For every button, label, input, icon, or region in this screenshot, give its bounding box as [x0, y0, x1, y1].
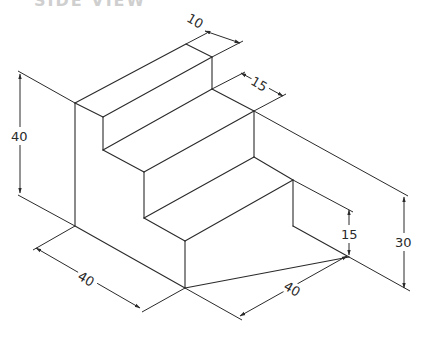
dim-line-top-step-depth — [205, 31, 240, 43]
dim-label-total-height: 40 — [11, 129, 28, 144]
object-edges — [75, 44, 349, 288]
dim-label-right-height: 30 — [395, 235, 412, 250]
dim-label-bottom-step-height: 15 — [341, 227, 358, 242]
isometric-stairs-drawing: 40 40 40 15 30 10 15 — [0, 0, 425, 337]
dimension-labels: 40 40 40 15 30 10 15 — [11, 10, 414, 301]
